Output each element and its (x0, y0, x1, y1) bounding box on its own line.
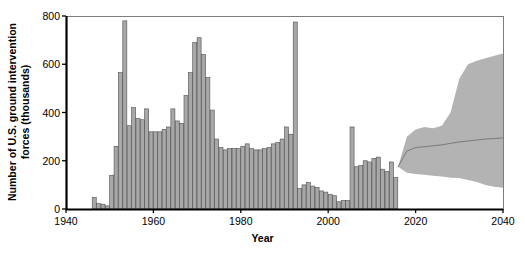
bar (302, 185, 306, 209)
bar (219, 147, 223, 209)
projection-band (398, 53, 503, 187)
bar (101, 204, 105, 209)
y-tick-label: 0 (24, 203, 60, 215)
bar (271, 144, 275, 209)
bar (381, 169, 385, 209)
y-tick-label: 200 (24, 155, 60, 167)
bar (110, 175, 114, 209)
bar (311, 186, 315, 209)
bar (324, 192, 328, 209)
bar (236, 149, 240, 209)
bar (149, 132, 153, 209)
bar (114, 146, 118, 209)
bar (341, 201, 345, 209)
bar (359, 166, 363, 209)
bar (250, 149, 254, 209)
bar (289, 134, 293, 209)
bar (171, 109, 175, 209)
chart-plot-area (0, 0, 525, 255)
bar (145, 109, 149, 209)
bar (123, 21, 127, 209)
bar (175, 121, 179, 209)
bar (228, 149, 232, 209)
bar (389, 162, 393, 209)
bar (132, 108, 136, 209)
bar (92, 197, 96, 209)
bar (376, 157, 380, 209)
bar (254, 150, 258, 209)
bar (298, 188, 302, 209)
bar (97, 204, 101, 209)
bar (201, 55, 205, 209)
bar (306, 182, 310, 209)
bar (197, 38, 201, 209)
y-tick-label: 400 (24, 107, 60, 119)
bar (188, 73, 192, 209)
bar (333, 196, 337, 209)
bar (140, 120, 144, 209)
x-tick-label: 2040 (491, 215, 514, 227)
bar (241, 146, 245, 209)
bar (276, 143, 280, 209)
bar (394, 178, 398, 209)
bar (223, 150, 227, 209)
bar (263, 149, 267, 209)
y-tick-label: 800 (24, 10, 60, 22)
bar (167, 127, 171, 209)
bar (350, 127, 354, 209)
bar (337, 202, 341, 209)
bar (363, 161, 367, 209)
bar (158, 132, 162, 209)
bar (315, 187, 319, 209)
x-tick-label: 1960 (142, 215, 165, 227)
bar (210, 110, 214, 209)
bar (180, 123, 184, 209)
bar (206, 78, 210, 209)
chart-figure: Number of U.S. ground intervention force… (0, 0, 525, 255)
bar (385, 172, 389, 209)
y-tick-label: 600 (24, 58, 60, 70)
bar (293, 22, 297, 209)
x-tick-label: 1980 (229, 215, 252, 227)
bar (215, 139, 219, 209)
x-tick-label: 1940 (54, 215, 77, 227)
bar (127, 126, 131, 209)
bar (267, 147, 271, 209)
bar (184, 96, 188, 209)
bar (118, 73, 122, 209)
bar (136, 119, 140, 209)
x-tick-label: 2000 (317, 215, 340, 227)
bar-series (92, 21, 398, 209)
bar (232, 149, 236, 209)
x-axis-label: Year (0, 232, 525, 244)
bar (162, 129, 166, 209)
bar (193, 43, 197, 209)
bar (354, 167, 358, 209)
bar (328, 195, 332, 209)
bar (285, 127, 289, 209)
bar (372, 158, 376, 209)
y-axis-label-line1: Number of U.S. ground intervention (6, 23, 18, 201)
projection-band-area (398, 53, 503, 187)
bar (319, 191, 323, 209)
bar (258, 150, 262, 209)
bar (245, 144, 249, 209)
bar (153, 132, 157, 209)
bar (346, 201, 350, 209)
x-tick-label: 2020 (404, 215, 427, 227)
bar (368, 162, 372, 209)
bar (280, 139, 284, 209)
